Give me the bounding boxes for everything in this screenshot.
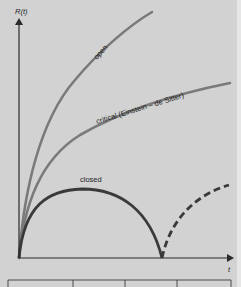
x-axis-arrow-icon bbox=[227, 254, 234, 262]
y-axis-label: R(t) bbox=[15, 7, 28, 16]
scale-factor-diagram: R(t) t open critical (Einstein – de Sitt… bbox=[0, 0, 241, 287]
critical-label: critical (Einstein – de Sitter) bbox=[95, 90, 185, 125]
closed-curve bbox=[19, 189, 162, 258]
closed-future-curve bbox=[162, 185, 229, 258]
x-axis-label: t bbox=[228, 265, 231, 274]
closed-label: closed bbox=[80, 175, 102, 184]
y-axis-arrow-icon bbox=[15, 18, 23, 25]
open-curve bbox=[19, 12, 152, 258]
